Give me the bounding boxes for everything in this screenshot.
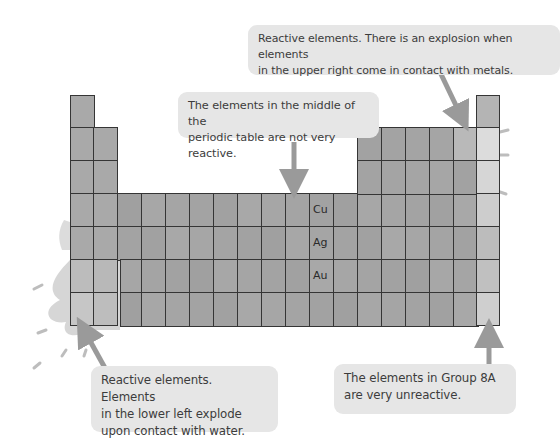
- callout-lower-left-line2: in the lower left explode: [101, 406, 268, 423]
- callout-group-8a: The elements in Group 8A are very unreac…: [334, 364, 516, 414]
- callout-upper-right-line2: in the upper right come in contact with …: [258, 63, 550, 79]
- callout-lower-left-line3: upon contact with water.: [101, 423, 268, 440]
- callout-middle-line1: The elements in the middle of the: [188, 98, 369, 130]
- callout-group-8a-line2: are very unreactive.: [344, 387, 506, 404]
- callout-upper-right: Reactive elements. There is an explosion…: [248, 25, 560, 75]
- callout-upper-right-line1: Reactive elements. There is an explosion…: [258, 31, 550, 63]
- callout-middle: The elements in the middle of the period…: [178, 92, 379, 138]
- callout-group-8a-line1: The elements in Group 8A: [344, 370, 506, 387]
- callout-lower-left: Reactive elements. Elements in the lower…: [91, 366, 278, 432]
- callout-lower-left-line1: Reactive elements. Elements: [101, 372, 268, 406]
- callout-middle-line2: periodic table are not very reactive.: [188, 130, 369, 162]
- arrow-lower-left-icon: [84, 330, 105, 368]
